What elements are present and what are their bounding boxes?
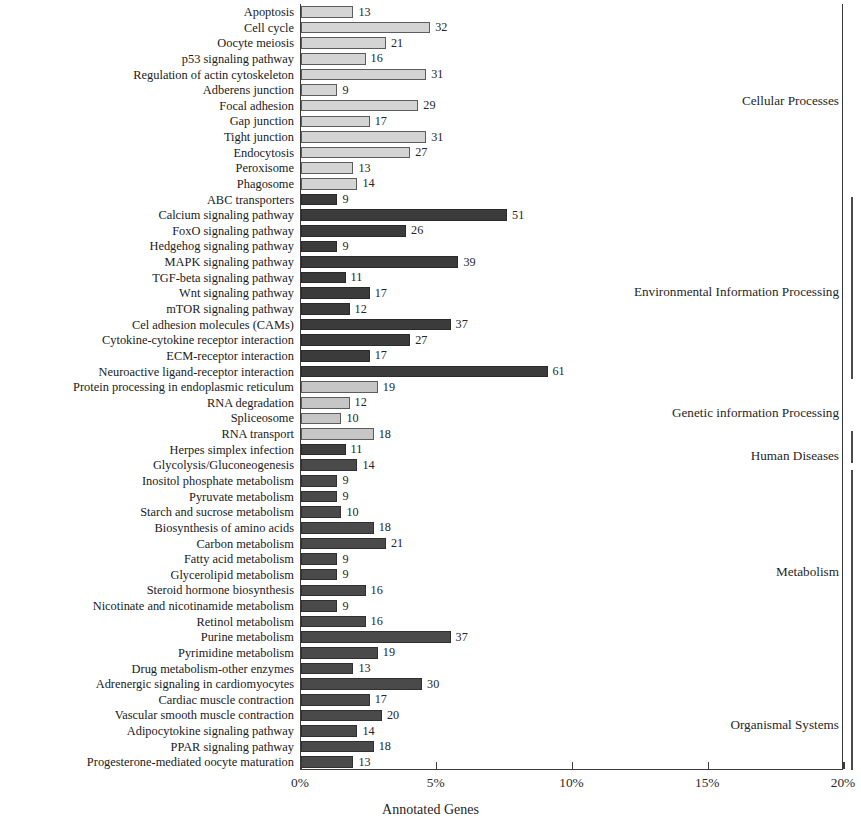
x-tick-label: 5% (427, 775, 445, 791)
bar-row: 17 (301, 692, 842, 709)
category-label: MAPK signaling pathway (0, 254, 294, 271)
category-label: Cytokine-cytokine receptor interaction (0, 332, 294, 349)
bar-value-label: 39 (463, 255, 475, 271)
group-name-label: Genetic information Processing (672, 405, 839, 421)
category-label: Calcium signaling pathway (0, 207, 294, 224)
x-tick-label: 0% (291, 775, 309, 791)
bar (301, 413, 341, 425)
bar (301, 366, 548, 378)
x-tick (708, 762, 709, 769)
bar-row: 9 (301, 551, 842, 568)
category-label: Gap junction (0, 113, 294, 130)
bar (301, 178, 357, 190)
x-tick-label: 15% (695, 775, 720, 791)
category-label: ABC transporters (0, 192, 294, 209)
bar-value-label: 12 (355, 302, 367, 318)
bar (301, 506, 341, 518)
category-label: Adipocytokine signaling pathway (0, 723, 294, 740)
bar (301, 194, 337, 206)
bar-row: 16 (301, 51, 842, 68)
category-label: FoxO signaling pathway (0, 223, 294, 240)
bar-value-label: 61 (553, 364, 565, 380)
bar-row: 18 (301, 739, 842, 756)
bar (301, 209, 507, 221)
bar (301, 6, 353, 18)
bar-value-label: 27 (415, 333, 427, 349)
bar-value-label: 19 (383, 645, 395, 661)
bar-value-label: 9 (342, 552, 348, 568)
bar-value-label: 31 (431, 67, 443, 83)
bar-row: 27 (301, 145, 842, 162)
bar-value-label: 18 (379, 739, 391, 755)
bar (301, 69, 426, 81)
bar (301, 522, 374, 534)
bar-row: 37 (301, 317, 842, 334)
bar-row: 14 (301, 176, 842, 193)
bar (301, 475, 337, 487)
bar-value-label: 17 (375, 114, 387, 130)
bar-value-label: 30 (427, 677, 439, 693)
bar (301, 428, 374, 440)
category-label: Vascular smooth muscle contraction (0, 707, 294, 724)
bar-value-label: 10 (346, 505, 358, 521)
category-label: Retinol metabolism (0, 614, 294, 631)
bar-value-label: 17 (375, 692, 387, 708)
bar (301, 303, 350, 315)
x-tick (300, 762, 301, 769)
category-label: Apoptosis (0, 4, 294, 21)
bar-row: 18 (301, 520, 842, 537)
bar-value-label: 27 (415, 145, 427, 161)
bar (301, 319, 451, 331)
category-label: Inositol phosphate metabolism (0, 473, 294, 490)
bar-row: 13 (301, 160, 842, 177)
bar-value-label: 9 (342, 239, 348, 255)
bar (301, 600, 337, 612)
bar (301, 538, 386, 550)
bar (301, 459, 357, 471)
category-label: mTOR signaling pathway (0, 301, 294, 318)
bar-row: 10 (301, 504, 842, 521)
bar-value-label: 12 (355, 395, 367, 411)
x-axis-tick-labels: 0%5%10%15%20% (300, 775, 843, 795)
bar (301, 100, 418, 112)
bar (301, 444, 346, 456)
bar-row: 21 (301, 536, 842, 553)
bar-row: 30 (301, 676, 842, 693)
bar (301, 225, 406, 237)
bar (301, 37, 386, 49)
bar-value-label: 21 (391, 536, 403, 552)
bar-value-label: 37 (456, 317, 468, 333)
bar-value-label: 18 (379, 520, 391, 536)
bar-row: 9 (301, 598, 842, 615)
bar-value-label: 9 (342, 192, 348, 208)
bar-row: 13 (301, 4, 842, 21)
bar (301, 678, 422, 690)
bar-row: 12 (301, 301, 842, 318)
category-label: Drug metabolism-other enzymes (0, 661, 294, 678)
category-label: Herpes simplex infection (0, 442, 294, 459)
category-label: Phagosome (0, 176, 294, 193)
group-name-label: Cellular Processes (742, 93, 839, 109)
x-tick (843, 762, 844, 769)
group-bracket (851, 431, 853, 463)
x-tick (436, 762, 437, 769)
x-axis-title: Annotated Genes (0, 802, 861, 818)
bar-value-label: 16 (371, 614, 383, 630)
category-label: Peroxisome (0, 160, 294, 177)
bar-row: 16 (301, 614, 842, 631)
category-label: RNA transport (0, 426, 294, 443)
category-label: Cardiac muscle contraction (0, 692, 294, 709)
bar (301, 84, 337, 96)
category-label: Wnt signaling pathway (0, 285, 294, 302)
category-label: Pyrimidine metabolism (0, 645, 294, 662)
bar (301, 241, 337, 253)
bar-row: 61 (301, 364, 842, 381)
bar (301, 381, 378, 393)
bar-value-label: 16 (371, 583, 383, 599)
category-label: Glycerolipid metabolism (0, 567, 294, 584)
bar-row: 31 (301, 67, 842, 84)
bar-value-label: 20 (387, 708, 399, 724)
bar (301, 585, 366, 597)
bar-row: 13 (301, 661, 842, 678)
bar-value-label: 13 (358, 661, 370, 677)
